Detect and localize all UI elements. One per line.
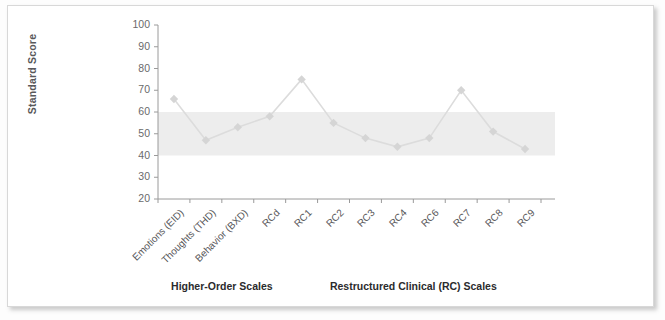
group-label-restructured-clinical: Restructured Clinical (RC) Scales bbox=[266, 280, 561, 292]
chart-card: Standard Score 1009080706050403020 Emoti… bbox=[7, 5, 654, 307]
y-axis-title: Standard Score bbox=[26, 19, 38, 129]
y-axis-tick-label: 20 bbox=[124, 192, 150, 204]
y-axis-tick-label: 40 bbox=[124, 149, 150, 161]
page-background: Standard Score 1009080706050403020 Emoti… bbox=[0, 0, 665, 320]
y-axis-tick-label: 60 bbox=[124, 105, 150, 117]
y-axis-tick-label: 70 bbox=[124, 83, 150, 95]
y-axis-tick-label: 90 bbox=[124, 40, 150, 52]
y-axis-tick-label: 50 bbox=[124, 127, 150, 139]
y-axis-tick-label: 80 bbox=[124, 62, 150, 74]
y-axis-tick-label: 100 bbox=[124, 18, 150, 30]
y-axis-tick-label: 30 bbox=[124, 170, 150, 182]
chart-plot-area: Standard Score 1009080706050403020 Emoti… bbox=[8, 6, 653, 306]
